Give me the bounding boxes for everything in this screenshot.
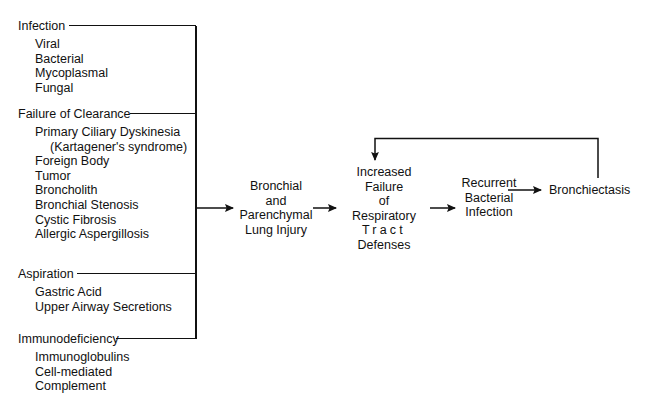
node-line: Respiratory: [339, 209, 429, 224]
group-infection: Infection Viral Bacterial Mycoplasmal Fu…: [18, 19, 108, 95]
node-increased-failure: Increased Failure of Respiratory Tract D…: [339, 165, 429, 253]
group-title: Aspiration: [18, 267, 172, 282]
node-line: Bronchial: [238, 179, 314, 194]
list-item: Cystic Fibrosis: [35, 213, 187, 228]
list-item: Primary Ciliary Dyskinesia: [35, 125, 187, 140]
node-lung-injury: Bronchial and Parenchymal Lung Injury: [238, 179, 314, 237]
node-line: Lung Injury: [238, 223, 314, 238]
list-item: Fungal: [35, 81, 108, 96]
group-title: Infection: [18, 19, 108, 34]
node-line: Recurrent: [458, 176, 520, 191]
node-line: Tract: [339, 223, 429, 238]
group-title: Immunodeficiency: [18, 332, 130, 347]
node-line: Infection: [458, 205, 520, 220]
group-immunodeficiency: Immunodeficiency Immunoglobulins Cell-me…: [18, 332, 130, 394]
node-line: Failure: [339, 180, 429, 195]
list-item: Upper Airway Secretions: [35, 300, 172, 315]
flow-diagram: Infection Viral Bacterial Mycoplasmal Fu…: [0, 0, 650, 416]
list-item: (Kartagener's syndrome): [35, 140, 187, 155]
list-item: Viral: [35, 37, 108, 52]
node-line: Defenses: [339, 238, 429, 253]
node-line: Bronchiectasis: [549, 183, 635, 198]
group-items: Primary Ciliary Dyskinesia (Kartagener's…: [35, 125, 187, 242]
group-aspiration: Aspiration Gastric Acid Upper Airway Sec…: [18, 267, 172, 314]
group-items: Immunoglobulins Cell-mediated Complement: [35, 350, 130, 394]
list-item: Mycoplasmal: [35, 66, 108, 81]
list-item: Bronchial Stenosis: [35, 198, 187, 213]
node-line: Parenchymal: [238, 208, 314, 223]
node-line: of: [339, 194, 429, 209]
node-bronchiectasis: Bronchiectasis: [549, 183, 635, 198]
node-line: and: [238, 194, 314, 209]
node-recurrent-infection: Recurrent Bacterial Infection: [458, 176, 520, 220]
list-item: Gastric Acid: [35, 285, 172, 300]
list-item: Foreign Body: [35, 154, 187, 169]
list-item: Immunoglobulins: [35, 350, 130, 365]
group-items: Gastric Acid Upper Airway Secretions: [35, 285, 172, 314]
group-items: Viral Bacterial Mycoplasmal Fungal: [35, 37, 108, 95]
node-line: Bacterial: [458, 191, 520, 206]
group-title: Failure of Clearance: [18, 107, 187, 122]
list-item: Cell-mediated: [35, 365, 130, 380]
list-item: Tumor: [35, 169, 187, 184]
list-item: Allergic Aspergillosis: [35, 227, 187, 242]
list-item: Bacterial: [35, 52, 108, 67]
list-item: Complement: [35, 379, 130, 394]
group-failure-of-clearance: Failure of Clearance Primary Ciliary Dys…: [18, 107, 187, 242]
list-item: Broncholith: [35, 183, 187, 198]
node-line: Increased: [339, 165, 429, 180]
